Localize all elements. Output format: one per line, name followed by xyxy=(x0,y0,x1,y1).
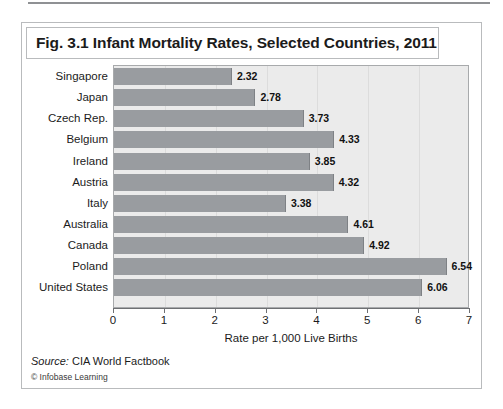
category-label: Australia xyxy=(63,214,108,235)
category-label: Poland xyxy=(72,256,108,277)
bar-value-label: 3.85 xyxy=(315,152,335,171)
bar-row: 3.73 xyxy=(113,108,469,129)
x-axis-tick xyxy=(164,308,165,313)
bar-value-label: 2.78 xyxy=(260,88,280,107)
bar xyxy=(114,153,310,170)
bar-value-label: 2.32 xyxy=(237,67,257,86)
bar xyxy=(114,174,334,191)
x-axis-tick xyxy=(316,308,317,313)
category-label: Czech Rep. xyxy=(48,108,108,129)
x-axis-tick-label: 4 xyxy=(313,314,319,326)
category-axis-labels: SingaporeJapanCzech Rep.BelgiumIrelandAu… xyxy=(26,65,108,308)
bar-value-label: 6.06 xyxy=(427,278,447,297)
x-axis-tick-label: 7 xyxy=(466,314,472,326)
bar-row: 4.33 xyxy=(113,129,469,150)
category-label: Italy xyxy=(87,193,108,214)
bar-chart: SingaporeJapanCzech Rep.BelgiumIrelandAu… xyxy=(26,64,473,349)
x-axis-tick xyxy=(266,308,267,313)
source-label: Source: xyxy=(31,355,69,367)
x-axis-tick-label: 6 xyxy=(415,314,421,326)
x-axis-tick xyxy=(215,308,216,313)
x-axis-tick xyxy=(367,308,368,313)
bar xyxy=(114,279,422,296)
bar-value-label: 3.73 xyxy=(309,109,329,128)
top-divider-rule xyxy=(28,2,490,4)
bar-value-label: 4.92 xyxy=(369,236,389,255)
category-label: Japan xyxy=(77,87,108,108)
bar xyxy=(114,68,232,85)
bar-value-label: 4.61 xyxy=(353,215,373,234)
bar-row: 4.32 xyxy=(113,172,469,193)
bar-row: 3.38 xyxy=(113,193,469,214)
source-note: Source: CIA World Factbook xyxy=(31,355,170,367)
bar-value-label: 4.33 xyxy=(339,130,359,149)
x-axis-tick-label: 1 xyxy=(161,314,167,326)
category-label: Ireland xyxy=(73,151,108,172)
bar xyxy=(114,195,286,212)
category-label: Austria xyxy=(72,172,108,193)
bar-row: 3.85 xyxy=(113,151,469,172)
bar xyxy=(114,237,364,254)
bar-row: 6.06 xyxy=(113,277,469,298)
category-label: Canada xyxy=(68,235,108,256)
source-value: CIA World Factbook xyxy=(72,355,170,367)
x-axis-tick xyxy=(113,308,114,313)
bar-value-label: 3.38 xyxy=(291,194,311,213)
x-axis-tick xyxy=(469,308,470,313)
category-label: United States xyxy=(39,277,108,298)
bar xyxy=(114,110,304,127)
x-axis-tick-label: 2 xyxy=(212,314,218,326)
x-axis-tick xyxy=(418,308,419,313)
bar xyxy=(114,131,334,148)
x-axis-tick-label: 3 xyxy=(262,314,268,326)
bar xyxy=(114,216,348,233)
bar xyxy=(114,258,447,275)
figure-title-box: Fig. 3.1 Infant Mortality Rates, Selecte… xyxy=(26,27,439,59)
category-label: Singapore xyxy=(56,66,108,87)
bar-value-label: 4.32 xyxy=(339,173,359,192)
x-axis-line xyxy=(113,308,469,309)
x-axis-tick-label: 0 xyxy=(110,314,116,326)
bar-value-label: 6.54 xyxy=(452,257,472,276)
bar-series: 2.322.783.734.333.854.323.384.614.926.54… xyxy=(113,65,469,308)
category-label: Belgium xyxy=(66,129,108,150)
bar-row: 6.54 xyxy=(113,256,469,277)
x-axis-tick-label: 5 xyxy=(364,314,370,326)
bar-row: 4.61 xyxy=(113,214,469,235)
bar-row: 2.78 xyxy=(113,87,469,108)
x-axis-title: Rate per 1,000 Live Births xyxy=(113,332,469,344)
bar-row: 4.92 xyxy=(113,235,469,256)
copyright-note: © Infobase Learning xyxy=(31,372,108,382)
bar xyxy=(114,89,255,106)
page-title: Fig. 3.1 Infant Mortality Rates, Selecte… xyxy=(27,34,437,52)
bar-row: 2.32 xyxy=(113,66,469,87)
